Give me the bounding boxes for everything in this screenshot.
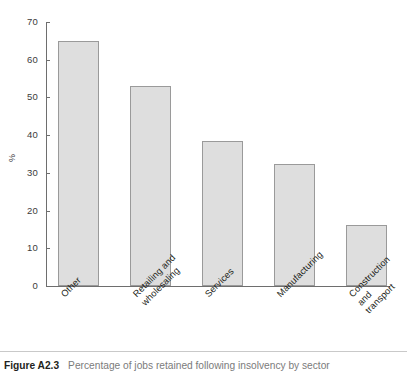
y-axis-tick-label: 70 — [0, 16, 38, 27]
y-axis-tick-label: 10 — [0, 242, 38, 253]
chart-plot-area: % 010203040506070 OtherRetailing and who… — [0, 0, 407, 300]
figure-caption-text: Percentage of jobs retained following in… — [68, 360, 330, 371]
bar — [58, 41, 99, 286]
y-axis-tick-label: 60 — [0, 54, 38, 65]
y-axis-tick-label: 30 — [0, 167, 38, 178]
figure-container: % 010203040506070 OtherRetailing and who… — [0, 0, 407, 378]
y-axis-tick-mark — [46, 173, 50, 174]
y-axis-tick-mark — [46, 211, 50, 212]
bar — [130, 86, 171, 286]
figure-caption-label: Figure A2.3 — [4, 360, 59, 371]
y-axis-tick-label: 40 — [0, 129, 38, 140]
y-axis-title: % — [7, 154, 17, 162]
figure-caption: Figure A2.3Percentage of jobs retained f… — [4, 359, 404, 372]
y-axis-tick-label: 20 — [0, 205, 38, 216]
bar — [202, 141, 243, 286]
y-axis-tick-mark — [46, 135, 50, 136]
y-axis-tick-mark — [46, 286, 50, 287]
y-axis-tick-mark — [46, 60, 50, 61]
y-axis-line — [46, 22, 47, 287]
y-axis-tick-mark — [46, 97, 50, 98]
y-axis-tick-mark — [46, 248, 50, 249]
caption-divider — [0, 351, 407, 352]
y-axis-tick-mark — [46, 22, 50, 23]
y-axis-tick-label: 50 — [0, 91, 38, 102]
y-axis-tick-label: 0 — [0, 280, 38, 291]
